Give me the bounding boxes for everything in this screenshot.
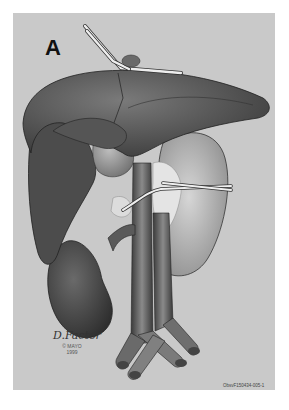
vessel-loop-top — [85, 26, 181, 73]
copyright-line-2: 1999 — [61, 349, 83, 355]
illustration-panel: A D.Factor © MAYO 1999 ObsvF150434-005-1 — [13, 13, 275, 390]
figure-id: ObsvF150434-005-1 — [223, 383, 264, 388]
copyright-notice: © MAYO 1999 — [61, 343, 83, 355]
artist-signature: D.Factor — [53, 329, 101, 342]
panel-label: A — [45, 35, 61, 61]
